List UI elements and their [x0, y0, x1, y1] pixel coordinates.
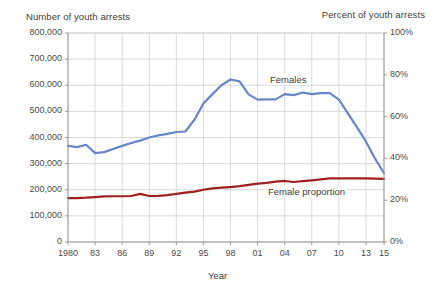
left-tick-label: 800,000 [8, 27, 62, 37]
left-tick-label: 700,000 [8, 53, 62, 63]
x-axis-label: Year [0, 270, 435, 281]
left-tick-label: 200,000 [8, 184, 62, 194]
right-tick-label: 60% [390, 111, 434, 121]
chart-figure: Number of youth arrests Percent of youth… [0, 0, 435, 294]
data-series [68, 80, 384, 199]
right-tick-label: 100% [390, 27, 434, 37]
left-tick-label: 300,000 [8, 158, 62, 168]
series-label-females: Females [268, 74, 308, 85]
left-tick-label: 0 [8, 236, 62, 246]
x-tick-label: 15 [367, 248, 401, 258]
left-tick-label: 400,000 [8, 132, 62, 142]
left-tick-label: 100,000 [8, 210, 62, 220]
right-tick-label: 40% [390, 152, 434, 162]
right-tick-label: 20% [390, 194, 434, 204]
left-tick-label: 600,000 [8, 79, 62, 89]
right-tick-label: 80% [390, 69, 434, 79]
left-tick-label: 500,000 [8, 105, 62, 115]
series-label-female-proportion: Female proportion [266, 186, 347, 197]
right-tick-label: 0% [390, 236, 434, 246]
gridlines [68, 33, 384, 242]
